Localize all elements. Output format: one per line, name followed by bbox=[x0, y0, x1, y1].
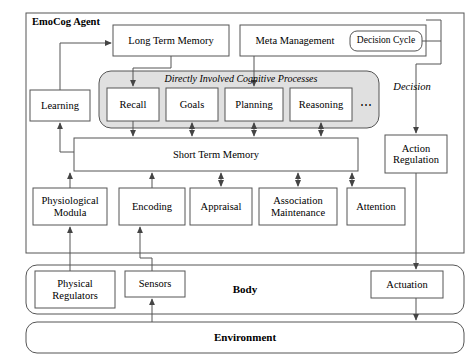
diagram-canvas: EmoCog Agent Long Term Memory Meta Manag… bbox=[0, 0, 473, 362]
sensors-box bbox=[125, 271, 185, 297]
appraisal-box bbox=[190, 188, 252, 225]
physiological-modula-box bbox=[33, 188, 107, 225]
action-regulation-box bbox=[385, 135, 447, 173]
diagram-vector-layer bbox=[0, 0, 473, 362]
learning-box bbox=[30, 90, 90, 121]
goals-box bbox=[166, 88, 218, 121]
encoding-box bbox=[119, 188, 185, 225]
association-maintenance-box bbox=[259, 188, 337, 225]
short-term-memory-box bbox=[74, 138, 358, 171]
recall-box bbox=[107, 88, 159, 121]
long-term-memory-box bbox=[113, 25, 229, 56]
physical-regulators-box bbox=[35, 271, 115, 308]
planning-box bbox=[225, 88, 283, 121]
reasoning-box bbox=[290, 88, 352, 121]
environment-frame bbox=[26, 322, 464, 353]
attention-box bbox=[347, 188, 405, 225]
decision-cycle-box bbox=[350, 31, 422, 51]
actuation-box bbox=[371, 271, 443, 298]
